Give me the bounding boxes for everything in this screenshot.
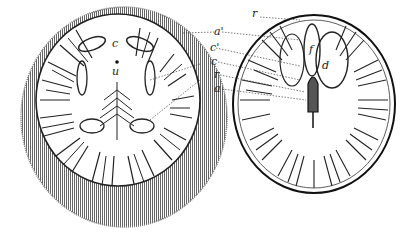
label-left-u: u (112, 66, 119, 77)
left-cross-section (21, 7, 227, 227)
label-d: d (322, 60, 329, 71)
right-cross-section (233, 15, 395, 193)
label-c-prime: c' (210, 42, 219, 53)
illustration (0, 0, 405, 236)
label-a: a (214, 83, 221, 94)
label-r: r (214, 69, 219, 80)
label-a-prime: a' (214, 26, 224, 37)
label-c: c (211, 56, 217, 67)
label-left-c: c (112, 38, 118, 49)
label-f: f (309, 44, 313, 55)
label-right-r-top: r (252, 8, 257, 19)
